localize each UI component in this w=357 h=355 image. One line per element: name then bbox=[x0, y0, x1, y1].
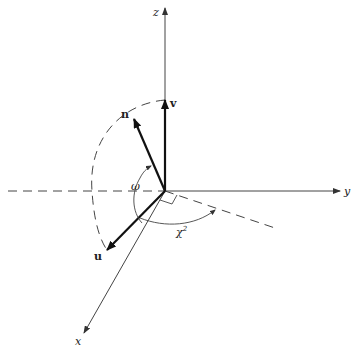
omega-label: ω bbox=[131, 180, 140, 193]
chi-label: χ2 bbox=[175, 225, 188, 239]
right-angle-marker bbox=[160, 195, 177, 204]
vector-diagram: z y x v n u ω χ2 bbox=[0, 0, 357, 355]
projection-line bbox=[165, 191, 275, 228]
x-axis-label: x bbox=[75, 335, 82, 348]
chi-angle-arc bbox=[140, 210, 215, 224]
vector-v-label: v bbox=[169, 97, 177, 110]
y-axis-label: y bbox=[343, 185, 351, 198]
z-axis-label: z bbox=[152, 6, 159, 19]
vector-u-label: u bbox=[94, 250, 102, 263]
vector-n-label: n bbox=[121, 108, 129, 121]
